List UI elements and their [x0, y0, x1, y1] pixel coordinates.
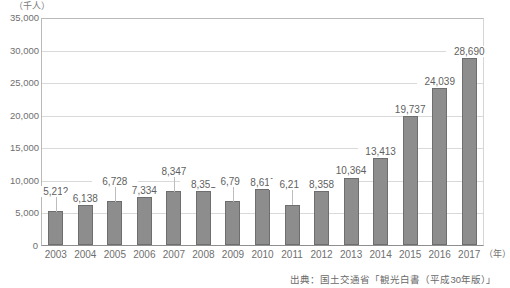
y-axis-tick-labels: 35,00030,00025,00020,00015,00010,0005,00…	[0, 18, 39, 246]
y-axis-tick: 25,000	[1, 78, 39, 88]
bar	[78, 205, 93, 245]
leader-line	[233, 187, 234, 202]
bar	[462, 58, 477, 245]
bar-value-label: 28,690	[446, 46, 492, 57]
bar	[344, 178, 359, 246]
y-axis-tick: 35,000	[1, 13, 39, 23]
y-axis-tick: 30,000	[1, 46, 39, 56]
x-axis-unit-label: （年）	[484, 248, 510, 261]
leader-line	[292, 190, 293, 205]
y-axis-tick: 10,000	[1, 176, 39, 186]
bar-value-label: 6,138	[62, 193, 108, 204]
bar	[137, 197, 152, 245]
bar-value-label: 8,347	[151, 166, 197, 177]
leader-line	[56, 197, 57, 212]
bar-value-label: 24,039	[417, 76, 463, 87]
y-axis-tick: 20,000	[1, 111, 39, 121]
y-axis-tick: 15,000	[1, 143, 39, 153]
bar-value-label: 10,364	[328, 165, 374, 176]
source-note: 出典：国土交通省「観光白書（平成30年版）」	[0, 274, 500, 286]
bar	[107, 201, 122, 245]
x-axis-tick: 2017	[452, 248, 486, 261]
bar	[314, 191, 329, 245]
bar	[196, 191, 211, 245]
leader-line	[115, 187, 116, 202]
x-axis-tick-labels: （年） 200320042005200620072008200920102011…	[41, 248, 504, 264]
bars-layer: 5,2126,1386,7287,3348,3478,3516,7908,611…	[41, 18, 484, 246]
leader-line	[174, 177, 175, 192]
bar-value-label: 13,413	[358, 146, 404, 157]
bar	[403, 116, 418, 245]
y-axis-zero-tick: 0	[0, 241, 38, 251]
bar	[432, 88, 447, 245]
y-axis-unit-label: （千人）	[14, 1, 50, 12]
bar	[166, 191, 181, 245]
bar-value-label: 19,737	[387, 104, 433, 115]
bar-value-label: 8,358	[299, 179, 345, 190]
y-axis-tick: 5,000	[1, 208, 39, 218]
bar	[225, 201, 240, 245]
bar	[48, 211, 63, 245]
bar	[285, 205, 300, 246]
bar	[373, 158, 388, 245]
bar-value-label: 7,334	[121, 185, 167, 196]
bar	[255, 189, 270, 245]
